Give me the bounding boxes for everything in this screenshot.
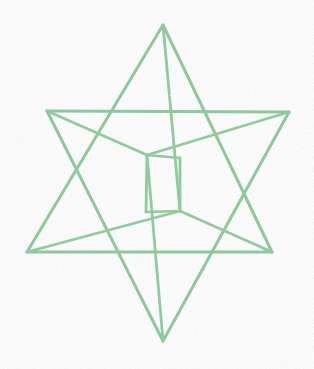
canvas-background bbox=[0, 0, 314, 369]
merkaba-star-tetrahedron-svg: stellated octahedron / star tetrahedron … bbox=[0, 0, 314, 369]
figure-canvas: stellated octahedron / star tetrahedron … bbox=[0, 0, 314, 369]
inner-core-left-vertical-edge bbox=[146, 155, 147, 212]
inner-core-bottom-link-edge bbox=[146, 211, 180, 212]
downward-tetra-top-edge bbox=[47, 111, 289, 112]
